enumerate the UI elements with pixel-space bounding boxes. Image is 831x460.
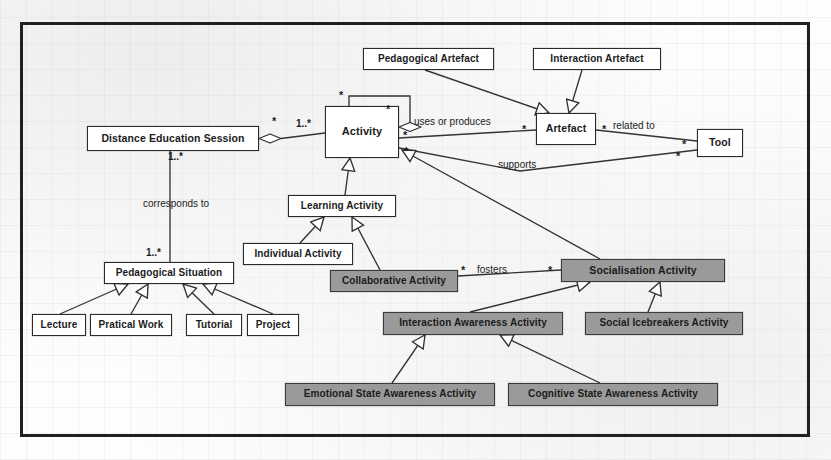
edge-collaborative-socialisation-fosters [458,270,561,276]
node-socialisation-activity[interactable]: Socialisation Activity [561,259,725,282]
node-individual-activity[interactable]: Individual Activity [243,243,353,265]
node-artefact[interactable]: Artefact [536,113,596,145]
edge-pedagogical-artefact-generalization [425,70,549,113]
edge-label-fosters: fosters [477,265,507,275]
edge-interaction-awareness-generalization [470,282,590,312]
node-label: Socialisation Activity [589,265,696,276]
multiplicity-artefact-related: * [602,124,606,135]
node-label: Lecture [41,320,78,331]
node-label: Emotional State Awareness Activity [304,389,477,400]
node-label: Interaction Awareness Activity [399,318,547,329]
edge-label-related-to: related to [613,121,655,131]
node-label: Pedagogical Artefact [378,54,479,65]
node-label: Social Icebreakers Activity [599,318,728,329]
edge-tutorial-generalization [183,284,214,314]
multiplicity-activity-self-top: * [339,90,343,101]
edge-label-supports: supports [498,160,536,170]
edge-activity-artefact-uses [399,130,536,138]
node-label: Activity [342,126,383,138]
node-social-icebreakers-activity[interactable]: Social Icebreakers Activity [585,312,743,335]
node-label: Collaborative Activity [342,276,446,287]
edge-interaction-artefact-generalization [569,70,582,113]
edge-tool-activity-supports [399,148,697,171]
node-collaborative-activity[interactable]: Collaborative Activity [330,270,458,292]
edge-des-activity [281,133,325,139]
node-interaction-artefact[interactable]: Interaction Artefact [533,48,661,70]
node-label: Distance Education Session [101,133,244,144]
edge-social-icebreakers-generalization [648,282,660,312]
node-label: Cognitive State Awareness Activity [528,389,698,400]
edge-project-generalization [203,284,273,314]
edge-individual-activity-generalization [300,217,324,243]
diagram-page: Distance Education Session Activity Peda… [0,0,831,460]
edge-label-corresponds-to: corresponds to [143,199,209,209]
multiplicity-des-activity-right: 1..* [296,119,311,129]
edge-pratical-work-generalization [131,284,148,314]
edge-lecture-generalization [60,284,128,314]
node-label: Tool [709,137,731,148]
node-label: Artefact [546,123,586,134]
node-learning-activity[interactable]: Learning Activity [288,195,396,217]
node-label: Interaction Artefact [550,54,643,65]
node-label: Project [256,320,291,331]
multiplicity-tool-supports: * [676,151,680,162]
node-interaction-awareness-activity[interactable]: Interaction Awareness Activity [383,312,563,335]
multiplicity-activity-self-right: * [386,104,390,115]
node-label: Pratical Work [98,320,163,331]
node-lecture[interactable]: Lecture [32,314,86,336]
node-label: Learning Activity [301,201,383,212]
node-project[interactable]: Project [247,314,299,336]
multiplicity-des-pedagogical-top: 1..* [168,152,183,162]
node-pedagogical-situation[interactable]: Pedagogical Situation [104,262,234,284]
multiplicity-artefact-uses: * [522,124,526,135]
multiplicity-des-activity-left: * [272,116,276,127]
diagram-canvas: Distance Education Session Activity Peda… [0,0,831,460]
edge-learning-activity-generalization [345,158,350,195]
node-label: Individual Activity [254,249,341,260]
multiplicity-activity-supports: * [404,146,408,157]
node-distance-education-session[interactable]: Distance Education Session [87,126,259,151]
edge-collaborative-activity-generalization [352,217,380,270]
node-label: Tutorial [196,320,233,331]
node-cognitive-state-awareness-activity[interactable]: Cognitive State Awareness Activity [508,383,718,406]
aggregation-diamond-des-activity [259,134,281,143]
multiplicity-collaborative-fosters: * [461,265,465,276]
node-emotional-state-awareness-activity[interactable]: Emotional State Awareness Activity [285,383,495,406]
multiplicity-socialisation-fosters: * [548,265,552,276]
node-tutorial[interactable]: Tutorial [186,314,242,336]
multiplicity-activity-uses: * [403,130,407,141]
node-pedagogical-artefact[interactable]: Pedagogical Artefact [363,48,494,70]
multiplicity-tool-related: * [682,139,686,150]
node-label: Pedagogical Situation [116,268,223,279]
multiplicity-des-pedagogical-bottom: 1..* [146,248,161,258]
edge-emotional-state-generalization [392,335,425,383]
node-tool[interactable]: Tool [697,129,743,157]
edge-cognitive-state-generalization [500,335,600,383]
node-pratical-work[interactable]: Pratical Work [90,314,172,336]
edge-label-uses-or-produces: uses or produces [414,117,491,127]
